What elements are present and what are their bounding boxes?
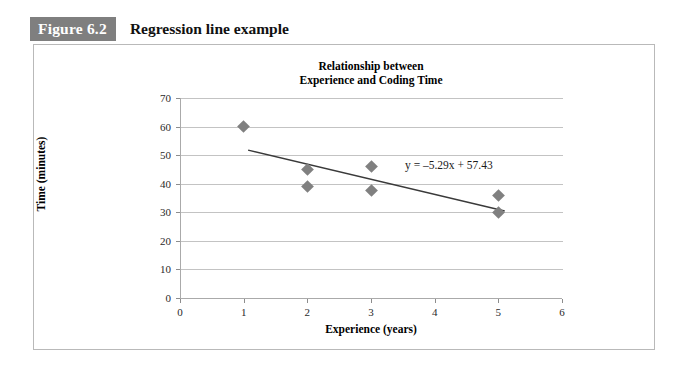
x-tick-mark xyxy=(498,299,499,303)
x-tick-mark xyxy=(307,299,308,303)
x-tick-mark xyxy=(562,299,563,303)
y-tick-label: 40 xyxy=(137,179,171,190)
x-axis-title: Experience (years) xyxy=(251,323,491,335)
y-tick-mark xyxy=(176,212,180,213)
chart-area: Relationship between Experience and Codi… xyxy=(0,0,689,373)
x-tick-label: 4 xyxy=(423,307,447,318)
x-tick-mark xyxy=(435,299,436,303)
y-tick-label: 10 xyxy=(137,264,171,275)
gridline xyxy=(181,98,563,99)
plot-area xyxy=(180,98,562,298)
y-tick-mark xyxy=(176,127,180,128)
gridline xyxy=(181,155,563,156)
y-tick-mark xyxy=(176,241,180,242)
gridline xyxy=(181,241,563,242)
y-tick-label: 70 xyxy=(137,93,171,104)
y-axis-title: Time (minutes) xyxy=(35,114,47,234)
x-tick-mark xyxy=(371,299,372,303)
chart-title: Relationship between Experience and Codi… xyxy=(236,59,506,87)
x-tick-label: 0 xyxy=(168,307,192,318)
x-tick-label: 1 xyxy=(232,307,256,318)
x-tick-mark xyxy=(244,299,245,303)
gridline xyxy=(181,212,563,213)
x-tick-label: 3 xyxy=(359,307,383,318)
y-tick-label: 0 xyxy=(137,293,171,304)
y-tick-label: 30 xyxy=(137,207,171,218)
y-tick-label: 50 xyxy=(137,150,171,161)
x-tick-label: 5 xyxy=(486,307,510,318)
y-tick-mark xyxy=(176,155,180,156)
y-tick-mark xyxy=(176,98,180,99)
regression-equation-label: y = –5.29x + 57.43 xyxy=(405,159,493,171)
y-tick-mark xyxy=(176,269,180,270)
x-tick-label: 2 xyxy=(295,307,319,318)
gridline xyxy=(181,269,563,270)
y-tick-label: 20 xyxy=(137,236,171,247)
y-tick-mark xyxy=(176,184,180,185)
x-tick-mark xyxy=(180,299,181,303)
x-tick-label: 6 xyxy=(550,307,574,318)
y-tick-label: 60 xyxy=(137,122,171,133)
